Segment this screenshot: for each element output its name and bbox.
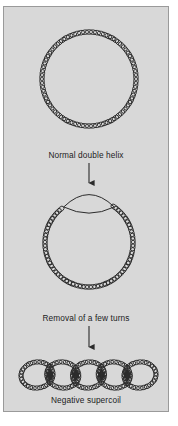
caption-removal-of-turns: Removal of a few turns	[4, 313, 168, 323]
circular-dna-unwound	[43, 195, 136, 290]
caption-negative-supercoil: Negative supercoil	[4, 395, 168, 405]
dna-supercoiling-diagram	[4, 7, 168, 411]
figure-panel: Normal double helix Removal of a few tur…	[3, 6, 169, 412]
circular-dna-normal	[40, 30, 139, 129]
supercoiled-dna	[18, 359, 158, 390]
caption-normal-double-helix: Normal double helix	[4, 150, 168, 160]
